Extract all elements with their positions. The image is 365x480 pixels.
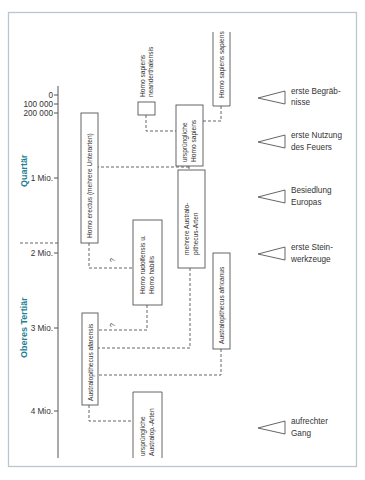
- human-evolution-diagram: 0 100 000 200 000 1 Mio. 2 Mio. 3 Mio. 4…: [0, 0, 365, 480]
- species-label: Homo rudolfensis u.: [139, 235, 146, 294]
- uncertainty-mark: ?: [109, 323, 116, 327]
- connector-rudolfensis-afarensis: [98, 305, 147, 330]
- tick-label-100000: 100 000: [23, 100, 53, 109]
- event-first-stone-tools: erste Stein- werkzeuge: [258, 243, 333, 264]
- connector-africanus-afarensis: [98, 349, 221, 375]
- event-label: aufrechter: [291, 417, 328, 426]
- triangle-marker-icon: [258, 91, 285, 104]
- species-label: Australop.-Arten: [148, 408, 156, 456]
- triangle-marker-icon: [258, 135, 285, 148]
- event-label: erste Stein-: [291, 243, 333, 252]
- event-upright-walking: aufrechter Gang: [258, 417, 328, 438]
- species-multi-australopithecus: mehrere Australo- pithecus-Arten: [178, 170, 205, 268]
- event-label: werkzeuge: [290, 255, 331, 264]
- species-label: ursprüngliche: [139, 416, 147, 456]
- species-homo-sapiens-sapiens: Homo sapiens sapiens: [213, 31, 230, 106]
- connector-erectus-rudolfensis: [89, 243, 133, 268]
- species-australopithecus-africanus: Australopithecus africanus: [213, 253, 230, 349]
- uncertainty-mark: ?: [109, 258, 116, 262]
- species-early-australopithecus: ursprüngliche Australop.-Arten: [133, 392, 162, 458]
- species-label: Homo habilis: [148, 255, 155, 294]
- era-label-oberes-tertiaer: Oberes Tertiär: [19, 297, 29, 358]
- event-first-fire-use: erste Nutzung des Feuers: [258, 131, 342, 152]
- event-label: Europas: [291, 198, 322, 207]
- species-label: neanderthalensis: [147, 46, 154, 97]
- time-axis: 0 100 000 200 000 1 Mio. 2 Mio. 3 Mio. 4…: [20, 86, 58, 458]
- event-first-burials: erste Begräb- nisse: [258, 87, 341, 107]
- era-label-quartaer: Quartär: [19, 154, 29, 187]
- connector-neanderthal: [146, 115, 176, 131]
- tick-label-1-mio: 1 Mio.: [31, 174, 53, 183]
- event-settlement-europe: Besiedlung Europas: [258, 186, 332, 207]
- tick-label-200000: 200 000: [23, 109, 53, 118]
- event-label: nisse: [291, 98, 311, 107]
- species-label: Homo sapiens sapiens: [218, 31, 226, 98]
- tick-label-0: 0: [48, 91, 53, 100]
- species-label: pithecus-Arten: [192, 212, 200, 255]
- tick-label-4-mio: 4 Mio.: [31, 407, 53, 416]
- triangle-marker-icon: [258, 421, 285, 434]
- event-label: Gang: [291, 429, 311, 438]
- event-label: Besiedlung: [291, 186, 332, 195]
- event-label: erste Nutzung: [291, 131, 342, 140]
- tick-label-3-mio: 3 Mio.: [31, 324, 53, 333]
- species-label: mehrere Australo-: [183, 203, 190, 255]
- species-label: Homo erectus (mehrere Unterarten): [86, 133, 94, 238]
- event-label: des Feuers: [291, 143, 332, 152]
- triangle-marker-icon: [258, 247, 285, 260]
- species-australopithecus-afarensis: Australopithecus afarensis: [82, 313, 98, 405]
- species-label: Australopithecus africanus: [218, 266, 226, 344]
- species-homo-rudolfensis-habilis: Homo rudolfensis u. Homo habilis: [133, 220, 162, 305]
- species-box: [138, 102, 155, 115]
- connector-afarensis-early-australo: [89, 405, 133, 421]
- species-label: ursprüngliche: [181, 122, 189, 162]
- species-homo-erectus: Homo erectus (mehrere Unterarten): [81, 113, 98, 243]
- connector-sapiens-sapiens: [202, 106, 221, 121]
- tick-label-2-mio: 2 Mio.: [31, 249, 53, 258]
- species-label: Australopithecus afarensis: [87, 323, 95, 401]
- species-early-homo-sapiens: ursprüngliche Homo sapiens: [176, 105, 203, 166]
- species-neanderthalensis: Homo sapiens neanderthalensis: [138, 46, 155, 115]
- triangle-marker-icon: [258, 190, 285, 203]
- species-label: Homo sapiens: [190, 119, 198, 162]
- event-label: erste Begräb-: [291, 87, 341, 96]
- species-label: Homo sapiens: [139, 54, 147, 97]
